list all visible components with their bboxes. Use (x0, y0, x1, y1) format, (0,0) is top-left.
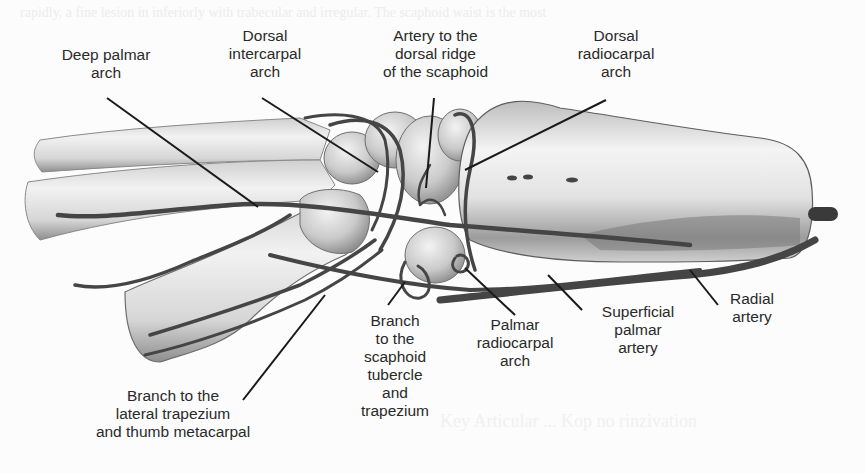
label-palmar-radiocarpal-arch: Palmar radiocarpal arch (460, 316, 570, 370)
radius-spot-3 (566, 178, 578, 183)
label-superficial-palmar-artery: Superficial palmar artery (578, 303, 698, 357)
radius-spot-1 (507, 176, 517, 181)
label-artery-dorsal-ridge: Artery to the dorsal ridge of the scapho… (368, 27, 503, 81)
label-branch-scaphoid-tubercle: Branch to the scaphoid tubercle and trap… (340, 312, 450, 420)
leader-superficial-palmar-artery (548, 275, 582, 310)
anatomy-figure: rapidly, a fine lesion in inferiorly wit… (0, 0, 865, 473)
radius-bone (459, 101, 838, 262)
label-radial-artery: Radial artery (707, 290, 797, 326)
radial-artery-stump (808, 207, 838, 221)
radius-spot-2 (523, 175, 533, 180)
label-deep-palmar-arch: Deep palmar arch (26, 46, 186, 82)
metacarpal-bones (25, 118, 369, 362)
label-dorsal-intercarpal-arch: Dorsal intercarpal arch (200, 27, 330, 81)
leader-branch-scaphoid-tubercle (388, 282, 405, 305)
label-dorsal-radiocarpal-arch: Dorsal radiocarpal arch (556, 27, 676, 81)
label-branch-lateral-trapezium: Branch to the lateral trapezium and thum… (58, 387, 288, 441)
